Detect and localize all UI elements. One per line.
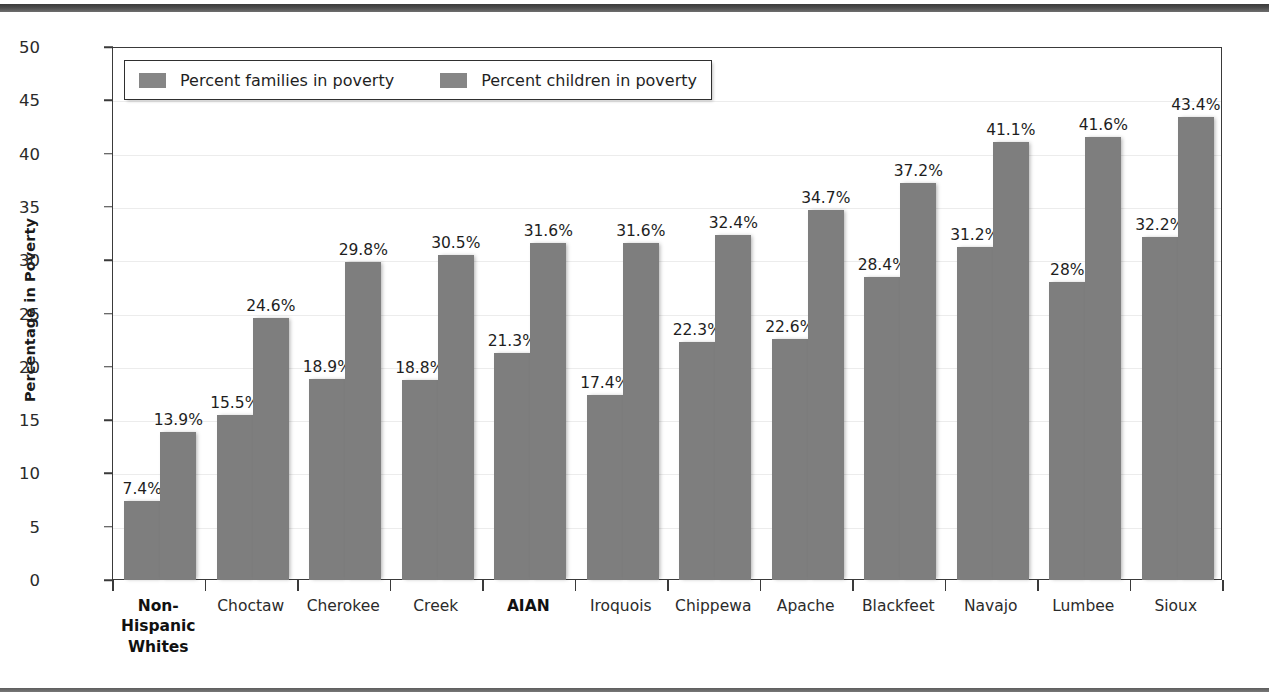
bar-children: 34.7% <box>808 210 844 580</box>
bar-families: 31.2% <box>957 247 993 580</box>
chart-legend: Percent families in poverty Percent chil… <box>124 60 712 100</box>
y-tick-label: 25 <box>0 304 40 323</box>
bar-children: 32.4% <box>715 235 751 580</box>
y-tick-label: 40 <box>0 144 40 163</box>
bar-families: 22.6% <box>772 339 808 580</box>
x-axis-label-line: Sioux <box>1111 596 1241 616</box>
x-tick-mark <box>482 580 484 591</box>
y-tick-label: 50 <box>0 38 40 57</box>
bar-children: 24.6% <box>253 318 289 580</box>
bar-families: 15.5% <box>217 415 253 580</box>
x-tick-mark <box>205 580 207 591</box>
page-rule-top <box>0 4 1269 12</box>
legend-entry-children: Percent children in poverty <box>440 71 697 90</box>
bar-value-label: 7.4% <box>123 480 162 498</box>
y-tick-label: 10 <box>0 464 40 483</box>
bar-value-label: 37.2% <box>894 162 943 180</box>
bar-group: 17.4%31.6% <box>587 47 659 580</box>
bar-value-label: 30.5% <box>431 234 480 252</box>
bar-value-label: 43.4% <box>1171 96 1220 114</box>
x-axis-label-line: Whites <box>93 637 223 657</box>
bar-value-label: 24.6% <box>246 297 295 315</box>
bar-value-label: 32.4% <box>709 214 758 232</box>
bar-group: 7.4%13.9% <box>124 47 196 580</box>
bar-group: 15.5%24.6% <box>217 47 289 580</box>
bar-children: 29.8% <box>345 262 381 580</box>
bar-value-label: 34.7% <box>801 189 850 207</box>
y-tick-label: 15 <box>0 411 40 430</box>
bars-layer: 7.4%13.9%15.5%24.6%18.9%29.8%18.8%30.5%2… <box>112 47 1222 580</box>
poverty-bar-chart: Percentage in Poverty 051015202530354045… <box>0 12 1269 684</box>
x-tick-mark <box>1037 580 1039 591</box>
x-tick-mark <box>112 580 114 591</box>
y-tick-label: 20 <box>0 357 40 376</box>
y-tick-label: 5 <box>0 517 40 536</box>
bar-group: 22.6%34.7% <box>772 47 844 580</box>
x-tick-mark <box>667 580 669 591</box>
bar-value-label: 41.6% <box>1079 116 1128 134</box>
bar-children: 41.1% <box>993 142 1029 580</box>
legend-label-families: Percent families in poverty <box>180 71 394 90</box>
bar-children: 41.6% <box>1085 137 1121 580</box>
bar-families: 18.8% <box>402 380 438 580</box>
bar-group: 18.8%30.5% <box>402 47 474 580</box>
y-tick-label: 0 <box>0 571 40 590</box>
x-tick-mark <box>852 580 854 591</box>
bar-children: 13.9% <box>160 432 196 580</box>
page-rule-bottom <box>0 688 1269 692</box>
bar-children: 43.4% <box>1178 117 1214 580</box>
bar-group: 22.3%32.4% <box>679 47 751 580</box>
bar-group: 31.2%41.1% <box>957 47 1029 580</box>
y-tick-label: 35 <box>0 197 40 216</box>
bar-group: 32.2%43.4% <box>1142 47 1214 580</box>
bar-children: 31.6% <box>623 243 659 580</box>
legend-swatch-families-icon <box>139 73 166 88</box>
bar-group: 28.4%37.2% <box>864 47 936 580</box>
x-tick-mark <box>390 580 392 591</box>
bar-group: 18.9%29.8% <box>309 47 381 580</box>
bar-families: 28.4% <box>864 277 900 580</box>
bar-children: 30.5% <box>438 255 474 580</box>
bar-group: 28%41.6% <box>1049 47 1121 580</box>
legend-entry-families: Percent families in poverty <box>139 71 394 90</box>
x-tick-mark <box>297 580 299 591</box>
bar-families: 17.4% <box>587 395 623 580</box>
bar-families: 7.4% <box>124 501 160 580</box>
x-tick-mark <box>1130 580 1132 591</box>
bar-families: 32.2% <box>1142 237 1178 580</box>
legend-label-children: Percent children in poverty <box>481 71 697 90</box>
x-axis-label-line: Hispanic <box>93 616 223 636</box>
bar-families: 21.3% <box>494 353 530 580</box>
x-tick-mark <box>575 580 577 591</box>
bar-families: 22.3% <box>679 342 715 580</box>
y-tick-label: 30 <box>0 251 40 270</box>
bar-value-label: 29.8% <box>339 241 388 259</box>
legend-swatch-children-icon <box>440 73 467 88</box>
bar-value-label: 28% <box>1050 261 1084 279</box>
x-tick-mark <box>1222 580 1224 591</box>
x-tick-mark <box>945 580 947 591</box>
bar-families: 18.9% <box>309 379 345 580</box>
bar-group: 21.3%31.6% <box>494 47 566 580</box>
bar-value-label: 31.6% <box>524 222 573 240</box>
bar-families: 28% <box>1049 282 1085 580</box>
y-tick-label: 45 <box>0 91 40 110</box>
bar-value-label: 41.1% <box>986 121 1035 139</box>
x-axis-label: Sioux <box>1111 596 1241 616</box>
x-tick-mark <box>760 580 762 591</box>
bar-children: 31.6% <box>530 243 566 580</box>
bar-children: 37.2% <box>900 183 936 580</box>
bar-value-label: 13.9% <box>154 411 203 429</box>
bar-value-label: 31.6% <box>616 222 665 240</box>
